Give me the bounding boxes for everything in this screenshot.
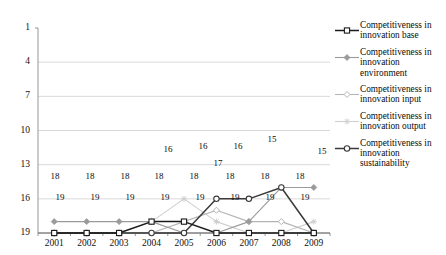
data-label: 18 bbox=[151, 171, 167, 181]
data-label: 19 bbox=[157, 192, 173, 202]
data-label: 19 bbox=[87, 192, 103, 202]
y-axis-tick: 19 bbox=[8, 227, 30, 237]
x-axis-tick: 2005 bbox=[167, 238, 201, 248]
legend-label: Competitiveness in innovation input bbox=[360, 84, 446, 105]
legend-item[interactable]: Competitiveness in innovation environmen… bbox=[334, 47, 446, 78]
data-label: 18 bbox=[47, 171, 63, 181]
data-label: 18 bbox=[257, 171, 273, 181]
legend-label: Competitiveness in innovation output bbox=[360, 111, 446, 132]
data-label: 15 bbox=[314, 146, 330, 156]
legend-item[interactable]: Competitiveness in innovation base bbox=[334, 20, 446, 41]
data-label: 16 bbox=[195, 141, 211, 151]
diamond-open-marker-icon bbox=[334, 86, 360, 97]
data-label: 19 bbox=[122, 192, 138, 202]
y-axis-tick: 16 bbox=[8, 193, 30, 203]
legend-item[interactable]: Competitiveness in innovation sustainabi… bbox=[334, 138, 446, 169]
x-axis-tick: 2008 bbox=[264, 238, 298, 248]
data-label: 18 bbox=[292, 171, 308, 181]
y-axis-tick: 10 bbox=[8, 125, 30, 135]
star-marker-icon bbox=[334, 113, 360, 124]
x-axis-tick: 2006 bbox=[199, 238, 233, 248]
chart-legend: Competitiveness in innovation baseCompet… bbox=[334, 20, 446, 175]
x-axis-tick: 2007 bbox=[232, 238, 266, 248]
data-label: 19 bbox=[192, 192, 208, 202]
data-label: 17 bbox=[210, 158, 226, 168]
y-axis-tick: 4 bbox=[8, 56, 30, 66]
legend-item[interactable]: Competitiveness in innovation output bbox=[334, 111, 446, 132]
legend-label: Competitiveness in innovation environmen… bbox=[360, 47, 446, 78]
legend-label: Competitiveness in innovation base bbox=[360, 20, 446, 41]
data-label: 19 bbox=[297, 192, 313, 202]
legend-item[interactable]: Competitiveness in innovation input bbox=[334, 84, 446, 105]
data-label: 18 bbox=[186, 171, 202, 181]
data-label: 19 bbox=[262, 192, 278, 202]
data-label: 19 bbox=[227, 192, 243, 202]
circle-marker-icon bbox=[334, 140, 360, 151]
square-marker-icon bbox=[334, 22, 360, 33]
x-axis-tick: 2003 bbox=[102, 238, 136, 248]
x-axis-tick: 2002 bbox=[70, 238, 104, 248]
y-axis-tick: 1 bbox=[8, 22, 30, 32]
data-label: 19 bbox=[52, 192, 68, 202]
innovation-competitiveness-line-chart: 14710131619 2001200220032004200520062007… bbox=[0, 0, 446, 255]
x-axis-tick: 2009 bbox=[297, 238, 331, 248]
x-axis-tick: 2001 bbox=[37, 238, 71, 248]
data-label: 18 bbox=[82, 171, 98, 181]
data-label: 16 bbox=[160, 144, 176, 154]
y-axis-tick: 13 bbox=[8, 159, 30, 169]
x-axis-tick: 2004 bbox=[135, 238, 169, 248]
data-label: 15 bbox=[264, 134, 280, 144]
data-label: 18 bbox=[222, 171, 238, 181]
data-label: 18 bbox=[117, 171, 133, 181]
diamond-marker-icon bbox=[334, 49, 360, 60]
y-axis-tick: 7 bbox=[8, 90, 30, 100]
legend-label: Competitiveness in innovation sustainabi… bbox=[360, 138, 446, 169]
data-label: 16 bbox=[230, 141, 246, 151]
